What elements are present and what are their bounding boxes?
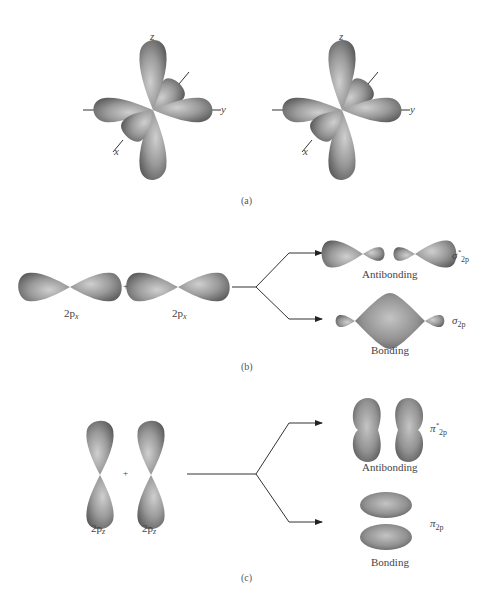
pi-star-2p-symbol: π*2p [430, 421, 447, 437]
split-arrow-b [232, 253, 322, 319]
2pz-label-right: 2pz [142, 522, 156, 536]
2px-label-left: 2px [64, 307, 79, 321]
pi-2p-bonding [360, 492, 412, 550]
sigma-2p-bonding [336, 293, 445, 349]
bonding-label-b: Bonding [371, 344, 409, 356]
2pz-label-left: 2pz [91, 522, 105, 536]
plus-sign-c: + [123, 468, 128, 478]
2px-orbital-right [126, 273, 230, 302]
2pz-orbital-left [86, 421, 113, 530]
caption-b: (b) [241, 361, 253, 372]
pi-star-2p-antibonding [353, 398, 423, 462]
x-axis-label-left: x [114, 145, 119, 157]
z-axis-label-left: z [150, 30, 154, 42]
p-orbitals-set-left [83, 40, 221, 180]
antibonding-label-c: Antibonding [362, 461, 418, 473]
split-arrow-c [187, 423, 322, 522]
x-axis-label-right: x [303, 145, 308, 157]
plus-sign-b: + [123, 281, 128, 291]
antibonding-label-b: Antibonding [362, 268, 418, 280]
pi-2p-symbol: π2p [430, 517, 444, 532]
sigma-star-2p-antibonding [322, 240, 457, 267]
caption-a: (a) [241, 195, 252, 206]
orbital-diagram [0, 0, 492, 589]
2px-orbital-left [18, 273, 122, 302]
sigma-2p-symbol: σ2p [452, 314, 465, 329]
2pz-orbital-right [137, 421, 164, 530]
caption-c: (c) [241, 572, 252, 583]
z-axis-label-right: z [339, 30, 343, 42]
sigma-star-2p-symbol: σ*2p [452, 248, 469, 264]
bonding-label-c: Bonding [371, 556, 409, 568]
y-axis-label-right: y [410, 103, 415, 115]
y-axis-label-left: y [221, 103, 226, 115]
2px-label-right: 2px [172, 307, 187, 321]
p-orbitals-set-right [272, 40, 410, 180]
